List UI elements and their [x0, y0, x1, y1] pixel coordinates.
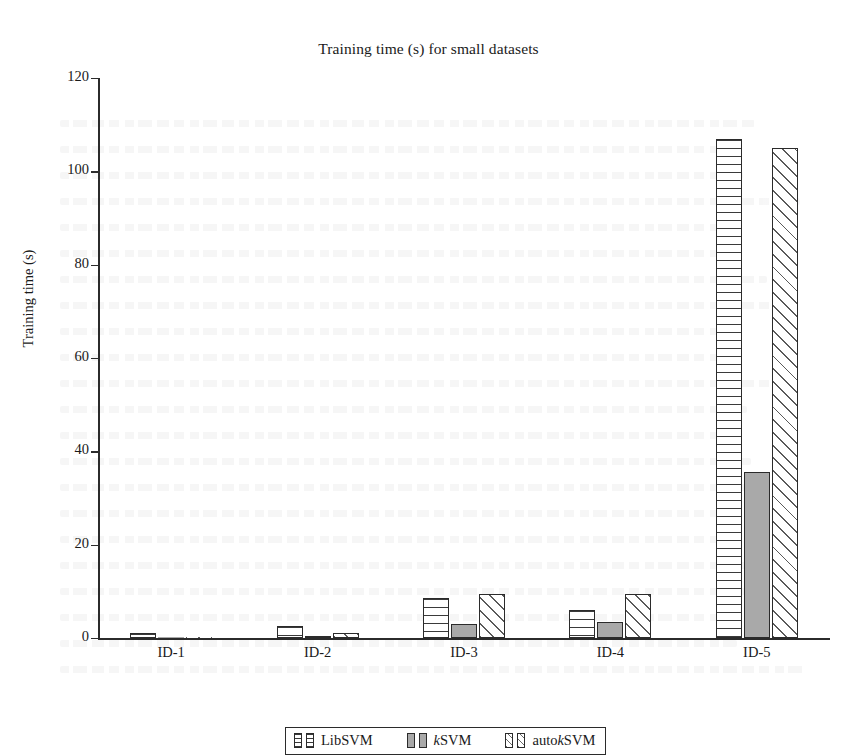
- legend-item-autoksvm: autokSVM: [505, 732, 595, 749]
- bar-ksvm-id-1: [158, 637, 184, 638]
- bars: [244, 78, 390, 638]
- y-tick-mark: [91, 545, 98, 546]
- legend-swatch-icon: [407, 733, 415, 748]
- y-tick-label: 40: [75, 441, 90, 458]
- bar-ksvm-id-2: [305, 636, 331, 638]
- plot-area: 020406080100120 ID-1ID-2ID-3ID-4ID-5: [98, 78, 830, 638]
- bar-libsvm-id-1: [130, 633, 156, 638]
- bar-autoksvm-id-5: [772, 148, 798, 638]
- legend-item-ksvm: kSVM: [407, 732, 472, 749]
- chart-figure: Training time (s) for small datasets Tra…: [0, 0, 857, 756]
- x-tick-label-id-1: ID-1: [157, 644, 184, 661]
- y-axis-title: Training time (s): [20, 209, 37, 389]
- bar-ksvm-id-3: [451, 624, 477, 638]
- bar-group-id-2: ID-2: [244, 78, 390, 638]
- bar-libsvm-id-2: [277, 626, 303, 638]
- legend-label: kSVM: [434, 732, 472, 749]
- y-tick-label: 80: [75, 255, 90, 272]
- bars: [684, 78, 830, 638]
- bars: [391, 78, 537, 638]
- x-tick-label-id-3: ID-3: [450, 644, 477, 661]
- y-tick-mark: [91, 171, 98, 172]
- legend-swatch-icon: [306, 733, 314, 748]
- x-tick-label-id-2: ID-2: [304, 644, 331, 661]
- y-tick-mark: [91, 265, 98, 266]
- x-tick-label-id-4: ID-4: [597, 644, 624, 661]
- bars: [98, 78, 244, 638]
- legend-label: autokSVM: [532, 732, 595, 749]
- y-tick-label: 20: [75, 535, 90, 552]
- bar-libsvm-id-5: [716, 139, 742, 638]
- bar-autoksvm-id-2: [333, 633, 359, 638]
- bar-group-id-5: ID-5: [684, 78, 830, 638]
- legend-swatch-icon: [419, 733, 427, 748]
- chart-legend: LibSVMkSVMautokSVM: [285, 727, 606, 755]
- y-tick-label: 100: [67, 161, 89, 178]
- y-tick-label: 0: [82, 628, 89, 645]
- y-tick-mark: [91, 78, 98, 79]
- bar-autoksvm-id-3: [479, 594, 505, 638]
- bar-ksvm-id-4: [597, 622, 623, 638]
- bars: [537, 78, 683, 638]
- bar-autoksvm-id-1: [186, 637, 212, 638]
- y-tick-label: 60: [75, 348, 90, 365]
- bar-autoksvm-id-4: [625, 594, 651, 638]
- y-tick-mark: [91, 451, 98, 452]
- bar-libsvm-id-3: [423, 598, 449, 638]
- legend-item-libsvm: LibSVM: [294, 732, 373, 749]
- bar-group-id-1: ID-1: [98, 78, 244, 638]
- y-tick-mark: [91, 638, 98, 639]
- legend-swatch-icon: [294, 733, 302, 748]
- legend-label: LibSVM: [321, 732, 373, 749]
- bar-group-id-3: ID-3: [391, 78, 537, 638]
- bar-group-id-4: ID-4: [537, 78, 683, 638]
- bar-ksvm-id-5: [744, 472, 770, 638]
- legend-swatch-icon: [517, 733, 525, 748]
- chart-title: Training time (s) for small datasets: [0, 40, 857, 58]
- x-tick-label-id-5: ID-5: [743, 644, 770, 661]
- x-axis-line: [98, 638, 830, 640]
- legend-swatch-icon: [505, 733, 513, 748]
- y-tick-mark: [91, 358, 98, 359]
- bar-libsvm-id-4: [569, 610, 595, 638]
- y-tick-label: 120: [67, 68, 89, 85]
